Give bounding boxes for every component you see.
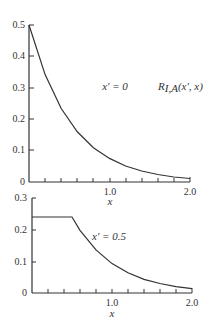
bottom-y-label-0: 0	[22, 287, 27, 298]
bottom-curve-xprime-0.5	[32, 217, 192, 289]
bottom-x-label-2.0: 2.0	[186, 297, 199, 308]
top-y-label-0.5: 0.5	[13, 19, 26, 30]
bottom-y-label-0.2: 0.2	[15, 224, 28, 235]
bottom-chart: 0.3 0.2 0.1 0 1.0 2.0 x x′ = 0.5	[15, 192, 199, 319]
bottom-y-label-0.3: 0.3	[15, 192, 28, 203]
top-y-ticks	[29, 25, 34, 150]
top-x-axis-title: x	[107, 195, 113, 207]
bottom-y-label-0.1: 0.1	[15, 256, 28, 267]
top-y-label-0.3: 0.3	[13, 82, 26, 93]
top-curve-xprime-0	[29, 25, 190, 179]
bottom-x-axis-title: x	[109, 307, 115, 319]
bottom-annotation-xprime: x′ = 0.5	[91, 230, 126, 242]
top-y-label-0.2: 0.2	[13, 113, 26, 124]
top-annotation-xprime: x′ = 0	[101, 80, 128, 92]
function-label: RI,A(x′, x)	[157, 80, 203, 94]
top-y-label-0.4: 0.4	[13, 50, 26, 61]
top-y-label-0.1: 0.1	[13, 144, 26, 155]
figure: 0.5 0.4 0.3 0.2 0.1 0 1.0 2.0 x x′ = 0 R…	[0, 0, 209, 335]
top-y-label-0: 0	[20, 176, 25, 187]
top-x-label-2.0: 2.0	[184, 186, 197, 197]
top-chart: 0.5 0.4 0.3 0.2 0.1 0 1.0 2.0 x x′ = 0 R…	[13, 19, 204, 207]
